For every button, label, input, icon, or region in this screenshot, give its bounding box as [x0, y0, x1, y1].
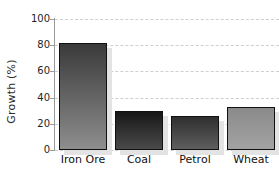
y-axis-tick-mark [50, 98, 55, 99]
x-axis-label-iron-ore: Iron Ore [55, 153, 111, 166]
y-axis-tick-label: 100 [24, 14, 50, 24]
bar-petrol[interactable] [171, 116, 219, 150]
bar-iron-ore[interactable] [59, 43, 107, 150]
bar-coal[interactable] [115, 111, 163, 150]
x-axis-label-petrol: Petrol [167, 153, 223, 166]
y-axis-tick-mark [50, 124, 55, 125]
y-axis-title: Growth (%) [0, 0, 22, 183]
y-axis-tick-mark [50, 150, 55, 151]
y-axis-tick-label: 0 [24, 145, 50, 155]
y-axis-tick-label: 80 [24, 40, 50, 50]
y-axis-tick-labels: 020406080100 [22, 0, 50, 183]
bar-wheat[interactable] [227, 107, 275, 150]
y-axis-tick-mark [50, 71, 55, 72]
x-axis-label-coal: Coal [111, 153, 167, 166]
plot-area [55, 19, 279, 150]
y-axis-tick-label: 60 [24, 66, 50, 76]
y-axis-tick-mark [50, 45, 55, 46]
gridline [55, 19, 279, 20]
y-axis-tick-label: 40 [24, 93, 50, 103]
y-axis-tick-mark [50, 19, 55, 20]
y-axis-tick-label: 20 [24, 119, 50, 129]
bar-chart: Growth (%) 020406080100 Iron OreCoalPetr… [0, 0, 279, 183]
x-axis-label-wheat: Wheat [223, 153, 279, 166]
